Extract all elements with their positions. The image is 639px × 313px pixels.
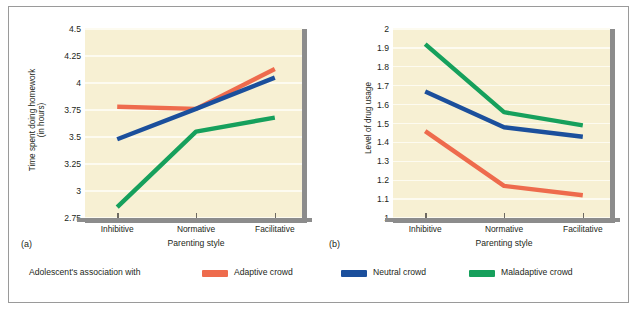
y-tick-label: 4.5 xyxy=(69,24,81,34)
series-lines-b xyxy=(393,29,615,218)
x-tick-label: Inhibitive xyxy=(101,224,134,234)
y-tick-label: 1.9 xyxy=(377,43,389,53)
x-axis-labels-b: InhibitiveNormativeFacilitative xyxy=(393,224,615,238)
y-tick-label: 1.3 xyxy=(377,156,389,166)
y-tick-label: 1.2 xyxy=(377,175,389,185)
chart-panel-b: Level of drug usage 11.11.21.31.41.51.61… xyxy=(321,7,631,259)
x-axis-b xyxy=(385,218,620,222)
legend: Adolescent's association with Adaptive c… xyxy=(9,265,630,285)
data-series-line xyxy=(425,44,583,125)
x-tick xyxy=(275,213,276,218)
y-tick-label: 3.25 xyxy=(64,159,81,169)
x-tick-label: Facilitative xyxy=(255,224,295,234)
data-series-line xyxy=(425,131,583,195)
y-axis-ticks-a: 2.7533.253.53.7544.254.5 xyxy=(11,29,81,218)
y-tick-label: 4 xyxy=(76,78,81,88)
x-axis-title-a: Parenting style xyxy=(85,238,307,248)
x-tick-label: Normative xyxy=(177,224,215,234)
legend-label: Adaptive crowd xyxy=(234,267,293,277)
x-tick-label: Normative xyxy=(485,224,523,234)
panel-label-a: (a) xyxy=(21,239,32,249)
x-tick xyxy=(117,213,118,218)
y-tick-label: 1.8 xyxy=(377,62,389,72)
x-tick xyxy=(196,213,197,218)
x-axis-labels-a: InhibitiveNormativeFacilitative xyxy=(85,224,307,238)
x-tick xyxy=(425,213,426,218)
legend-color-swatch xyxy=(202,270,228,277)
series-lines-a xyxy=(85,29,307,218)
y-axis-ticks-b: 11.11.21.31.41.51.61.71.81.92 xyxy=(321,29,389,218)
y-tick-label: 3.75 xyxy=(64,105,81,115)
y-tick-label: 3.5 xyxy=(69,132,81,142)
legend-color-swatch xyxy=(469,270,495,277)
panels-container: Time spent doing homework (in hours) 2.7… xyxy=(9,7,630,259)
legend-color-swatch xyxy=(341,270,367,277)
y-tick-label: 2 xyxy=(384,24,389,34)
y-tick-label: 1.7 xyxy=(377,81,389,91)
figure-frame: Time spent doing homework (in hours) 2.7… xyxy=(8,6,629,303)
x-axis-title-b: Parenting style xyxy=(393,238,615,248)
x-axis-a xyxy=(77,218,312,222)
y-tick-label: 1.6 xyxy=(377,100,389,110)
x-tick xyxy=(504,213,505,218)
legend-label: Neutral crowd xyxy=(373,267,426,277)
plot-area-b xyxy=(393,29,615,218)
x-tick xyxy=(583,213,584,218)
y-tick-label: 1.1 xyxy=(377,194,389,204)
y-tick-label: 4.25 xyxy=(64,51,81,61)
x-tick-label: Inhibitive xyxy=(409,224,442,234)
panel-label-b: (b) xyxy=(329,239,340,249)
legend-label: Maladaptive crowd xyxy=(501,267,573,277)
y-tick-label: 1.4 xyxy=(377,137,389,147)
chart-panel-a: Time spent doing homework (in hours) 2.7… xyxy=(11,7,321,259)
legend-title: Adolescent's association with xyxy=(29,267,141,277)
y-tick-label: 3 xyxy=(76,186,81,196)
x-tick-label: Facilitative xyxy=(563,224,603,234)
y-tick-label: 1.5 xyxy=(377,119,389,129)
plot-area-a xyxy=(85,29,307,218)
